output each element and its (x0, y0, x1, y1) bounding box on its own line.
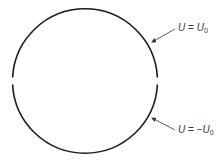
label-rhs: U (202, 124, 209, 135)
label-rhs: U (197, 22, 204, 33)
diagram-canvas: U = U0 U = −U0 (0, 0, 224, 164)
arrow-upper (152, 29, 175, 42)
label-eq: = (188, 124, 194, 135)
label-var: U (178, 22, 185, 33)
upper-arc (13, 9, 158, 78)
label-sub: 0 (204, 27, 208, 34)
label-var: U (178, 124, 185, 135)
label-eq: = (188, 22, 194, 33)
label-upper-boundary: U = U0 (178, 22, 208, 34)
label-lower-boundary: U = −U0 (178, 124, 214, 136)
label-sub: 0 (210, 129, 214, 136)
arrow-lower (152, 118, 175, 130)
lower-arc (13, 85, 158, 154)
